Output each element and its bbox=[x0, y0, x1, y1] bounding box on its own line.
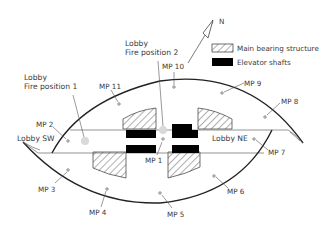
legend-shaft-swatch bbox=[212, 58, 233, 66]
fire-position-2-marker bbox=[159, 126, 167, 134]
mp-3-label: MP 3 bbox=[38, 185, 55, 194]
mp-9-label: MP 9 bbox=[244, 79, 262, 88]
elevator-shaft-3 bbox=[172, 124, 198, 138]
elevator-shaft-1 bbox=[126, 130, 156, 138]
fire-position-1-label-line2: Fire position 1 bbox=[24, 82, 77, 91]
bearing-structure-nw bbox=[123, 108, 156, 129]
elevator-shaft-4 bbox=[172, 145, 199, 153]
mp-10-label: MP 10 bbox=[162, 62, 184, 71]
mp-6-label: MP 6 bbox=[227, 187, 245, 196]
mp-7-label: MP 7 bbox=[268, 148, 285, 157]
legend-label-bearing: Main bearing structure bbox=[237, 44, 319, 53]
elevator-shaft-2 bbox=[126, 145, 156, 153]
mp-1-label: MP 1 bbox=[145, 156, 162, 165]
north-label: N bbox=[219, 17, 224, 26]
fire-position-2-label-line1: Lobby bbox=[125, 39, 148, 48]
north-arrow-icon bbox=[188, 20, 213, 63]
fire-position-2-label-line2: Fire position 2 bbox=[125, 48, 178, 57]
fire-position-1-label-line1: Lobby bbox=[24, 73, 47, 82]
lobby-sw-label: Lobby SW bbox=[17, 134, 55, 143]
mp-2-label: MP 2 bbox=[36, 120, 53, 129]
lobby-ne-label: Lobby NE bbox=[212, 134, 248, 143]
legend-hatch-swatch bbox=[212, 44, 233, 52]
legend-label-shafts: Elevator shafts bbox=[237, 58, 291, 67]
floor-plan-diagram: N Main bearing structure Elevator shafts bbox=[0, 0, 327, 229]
bearing-structure-sw bbox=[93, 152, 126, 178]
fire-position-1-marker bbox=[81, 137, 89, 145]
bearing-structure-se bbox=[168, 152, 200, 178]
mp-4-label: MP 4 bbox=[89, 208, 107, 217]
building-outline bbox=[23, 79, 303, 203]
mp-5-label: MP 5 bbox=[167, 210, 184, 219]
legend: Main bearing structure Elevator shafts bbox=[212, 44, 319, 67]
mp-11-label: MP 11 bbox=[99, 82, 121, 91]
bearing-structure-ne bbox=[198, 108, 232, 129]
mp-8-label: MP 8 bbox=[281, 97, 299, 106]
